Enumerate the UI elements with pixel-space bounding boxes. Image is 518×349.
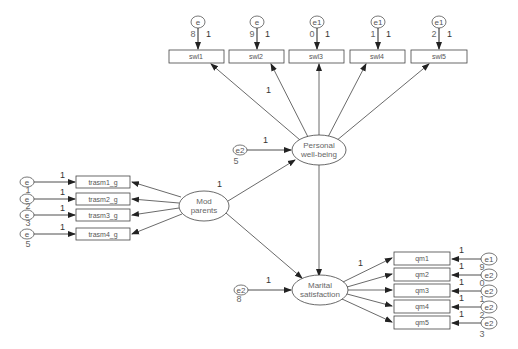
mod-loadings — [132, 182, 182, 234]
svg-text:0: 0 — [479, 278, 484, 288]
svg-text:e: e — [196, 18, 201, 27]
svg-text:e2: e2 — [236, 146, 245, 155]
svg-text:swl1: swl1 — [189, 53, 203, 60]
box-qm3[interactable]: qm3 — [394, 284, 450, 297]
svg-text:1: 1 — [459, 261, 464, 271]
svg-text:1: 1 — [60, 187, 65, 197]
box-trasm2_g[interactable]: trasm2_g — [76, 193, 130, 205]
svg-text:e1: e1 — [313, 18, 322, 27]
error-e5[interactable]: e 3 5 1 — [20, 218, 75, 249]
svg-text:1: 1 — [459, 309, 464, 319]
sem-diagram: e 8 1 e 9 1 e1 0 1 e1 1 1 e1 — [0, 0, 518, 349]
box-qm1[interactable]: qm1 — [394, 252, 450, 265]
residual-e28[interactable]: e2 8 1 — [234, 275, 291, 304]
svg-text:swl2: swl2 — [249, 53, 263, 60]
loading-ms-qm1: 1 — [358, 258, 363, 268]
latent-mod-parents[interactable]: Mod parents 1 — [179, 179, 229, 221]
box-qm4[interactable]: qm4 — [394, 300, 450, 313]
svg-text:3: 3 — [25, 218, 30, 228]
svg-text:5: 5 — [25, 239, 30, 249]
svg-text:e2: e2 — [485, 271, 494, 280]
box-swl4[interactable]: swl4 — [350, 50, 405, 63]
svg-text:8: 8 — [236, 294, 241, 304]
svg-text:5: 5 — [233, 156, 238, 166]
svg-text:Personal: Personal — [303, 141, 335, 150]
svg-text:e1: e1 — [374, 18, 383, 27]
right-indicators: qm1 qm2 qm3 qm4 qm5 — [394, 252, 450, 329]
svg-text:e2: e2 — [485, 319, 494, 328]
svg-text:qm5: qm5 — [415, 319, 429, 327]
svg-text:1: 1 — [447, 29, 452, 39]
svg-text:1: 1 — [60, 203, 65, 213]
box-trasm4_g[interactable]: trasm4_g — [76, 228, 130, 240]
loading-pwb-swl1: 1 — [266, 85, 271, 95]
svg-text:trasm3_g: trasm3_g — [88, 212, 117, 220]
svg-text:1: 1 — [459, 245, 464, 255]
box-swl3[interactable]: swl3 — [289, 50, 344, 63]
svg-text:parents: parents — [191, 206, 218, 215]
svg-text:qm1: qm1 — [415, 255, 429, 263]
svg-text:1: 1 — [386, 29, 391, 39]
ms-loadings — [342, 258, 392, 322]
top-errors: e 8 1 e 9 1 e1 0 1 e1 1 1 e1 — [190, 16, 452, 49]
svg-text:swl3: swl3 — [309, 53, 323, 60]
svg-text:e: e — [25, 230, 30, 239]
error-e8[interactable]: e 8 1 — [190, 16, 211, 49]
box-swl2[interactable]: swl2 — [229, 50, 284, 63]
svg-text:2: 2 — [479, 310, 484, 320]
svg-text:satisfaction: satisfaction — [300, 290, 340, 299]
residual-e25[interactable]: e2 5 1 — [233, 135, 291, 166]
svg-text:2: 2 — [431, 29, 436, 39]
error-e10[interactable]: e1 0 1 — [309, 16, 330, 49]
error-e32[interactable]: e2 2 3 1 — [452, 309, 497, 339]
error-e11[interactable]: e1 1 1 — [370, 16, 391, 49]
left-errors: e 1 e 1 1 e 2 1 e 3 5 1 — [20, 170, 75, 249]
error-e9[interactable]: e 9 1 — [249, 16, 270, 49]
svg-text:trasm4_g: trasm4_g — [88, 231, 117, 239]
svg-text:1: 1 — [325, 29, 330, 39]
svg-text:1: 1 — [370, 29, 375, 39]
error-e12[interactable]: e1 2 1 — [431, 16, 452, 49]
svg-text:9: 9 — [249, 29, 254, 39]
svg-text:qm4: qm4 — [415, 303, 429, 311]
svg-text:swl4: swl4 — [370, 53, 384, 60]
svg-text:3: 3 — [479, 329, 484, 339]
svg-text:1: 1 — [60, 170, 65, 180]
box-trasm3_g[interactable]: trasm3_g — [76, 209, 130, 221]
svg-text:1: 1 — [25, 185, 30, 195]
svg-text:1: 1 — [266, 275, 271, 285]
box-qm5[interactable]: qm5 — [394, 316, 450, 329]
svg-text:e2: e2 — [485, 303, 494, 312]
svg-text:Marital: Marital — [308, 281, 332, 290]
svg-text:Mod: Mod — [196, 197, 212, 206]
box-swl1[interactable]: swl1 — [169, 50, 224, 63]
svg-text:1: 1 — [479, 294, 484, 304]
mod-variance: 1 — [217, 179, 222, 189]
svg-text:swl5: swl5 — [432, 53, 446, 60]
svg-text:1: 1 — [459, 293, 464, 303]
left-indicators: trasm1_g trasm2_g trasm3_g trasm4_g — [76, 176, 130, 240]
svg-text:0: 0 — [309, 29, 314, 39]
svg-text:8: 8 — [190, 29, 195, 39]
svg-text:e1: e1 — [485, 255, 494, 264]
right-errors: e1 1 e2 9 1 e2 0 1 e2 1 1 e2 2 — [452, 245, 497, 339]
svg-text:well-being: well-being — [300, 150, 337, 159]
svg-text:1: 1 — [265, 29, 270, 39]
svg-text:trasm1_g: trasm1_g — [88, 179, 117, 187]
pwb-loadings — [211, 64, 429, 141]
svg-text:qm2: qm2 — [415, 271, 429, 279]
box-trasm1_g[interactable]: trasm1_g — [76, 176, 130, 188]
svg-text:qm3: qm3 — [415, 287, 429, 295]
structural-paths — [226, 160, 319, 278]
svg-text:1: 1 — [60, 222, 65, 232]
box-swl5[interactable]: swl5 — [411, 50, 467, 63]
svg-text:2: 2 — [25, 201, 30, 211]
svg-text:9: 9 — [479, 262, 484, 272]
box-qm2[interactable]: qm2 — [394, 268, 450, 281]
svg-text:1: 1 — [459, 277, 464, 287]
latent-marital-satisfaction[interactable]: Marital satisfaction — [292, 275, 348, 305]
top-indicators: swl1 swl2 swl3 swl4 swl5 — [169, 50, 467, 63]
svg-text:1: 1 — [263, 135, 268, 145]
latent-personal-well-being[interactable]: Personal well-being — [292, 135, 346, 165]
svg-text:e2: e2 — [485, 287, 494, 296]
